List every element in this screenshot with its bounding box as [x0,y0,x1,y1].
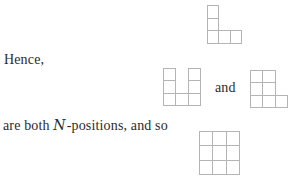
grid-cell [226,131,240,146]
grid-cell [163,93,176,106]
script-capital-n: N [53,117,66,133]
grid-cell [212,131,226,146]
grid-cell [188,80,201,93]
grid-cell [250,95,263,108]
grid-cell [226,160,240,175]
text-hence: Hence, [4,53,44,67]
grid-cell [262,82,275,95]
text-n-positions-suffix: -positions, and so [67,118,168,133]
grid-cell [207,18,219,32]
grid-cell [275,95,288,108]
grid-cell [199,160,213,175]
grid-cell [163,80,176,93]
grid-cell [207,5,219,19]
grid-cell [250,70,263,83]
grid-cell [163,68,176,81]
grid-cell [212,145,226,160]
text-n-positions-prefix: are both [3,118,53,133]
grid-cell [199,131,213,146]
text-n-positions-line: are both N-positions, and so [3,118,168,133]
grid-cell [199,145,213,160]
grid-cell [230,30,242,44]
grid-cell [188,68,201,81]
grid-cell [212,160,226,175]
text-and: and [215,81,236,95]
grid-cell [226,145,240,160]
grid-cell [262,95,275,108]
document-page: Hence, are both N-positions, and so and [0,0,295,176]
grid-cell [175,93,188,106]
grid-cell [250,82,263,95]
grid-cell [188,93,201,106]
grid-cell [262,70,275,83]
